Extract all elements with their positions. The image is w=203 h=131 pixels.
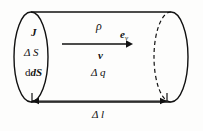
label-delta-q: Δ q — [91, 67, 106, 78]
label-differential-S: dS — [31, 66, 43, 78]
label-delta-S: Δ S — [24, 47, 39, 58]
label-velocity-v: v — [98, 50, 103, 61]
label-charge-density-rho: ρ — [96, 20, 102, 32]
label-unit-vector-ev: ev — [120, 29, 128, 42]
dimension-arrow-head-right — [160, 98, 167, 104]
dimension-arrow-head-left — [32, 98, 39, 104]
label-unit-vector-subscript: v — [125, 34, 128, 42]
right-face-visible-arc — [171, 12, 188, 102]
label-delta-l: Δ l — [92, 109, 104, 120]
figure-container: J Δ S ddS ρ ev v Δ q Δ l — [0, 0, 203, 131]
label-differential-dS: ddS — [25, 67, 42, 78]
right-face-hidden-arc — [154, 12, 171, 102]
label-current-density-J: J — [31, 27, 37, 38]
